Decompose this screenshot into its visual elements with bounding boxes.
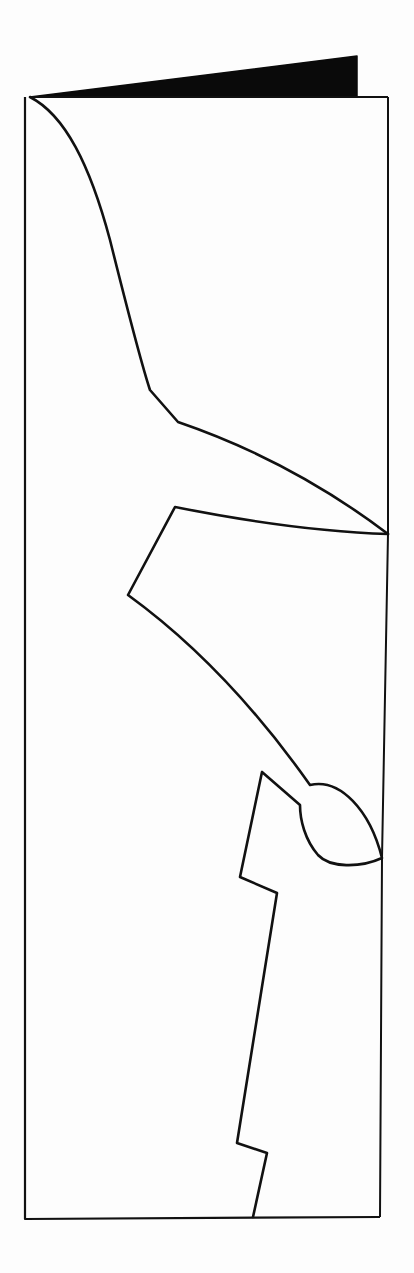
page-right-edge bbox=[380, 97, 388, 1217]
diagram-canvas bbox=[0, 0, 414, 1273]
page-outline bbox=[25, 97, 388, 1219]
cut-line-lower bbox=[128, 507, 388, 1217]
folded-paper-drawing bbox=[0, 0, 414, 1273]
cut-line-upper bbox=[30, 97, 388, 534]
fold-flap-shape bbox=[30, 56, 357, 97]
